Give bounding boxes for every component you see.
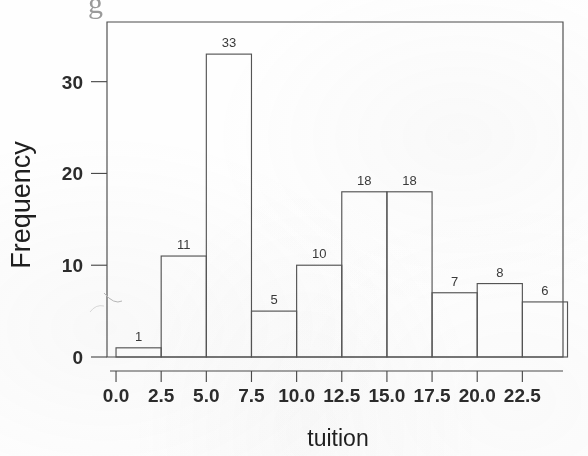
bar-value-label: 8	[496, 265, 503, 280]
y-axis-title: Frequency	[6, 141, 36, 269]
histogram-bar-hitbox[interactable]	[161, 256, 206, 357]
bar-value-label: 6	[541, 283, 548, 298]
bar-value-label: 18	[357, 173, 371, 188]
bar-value-label: 5	[270, 292, 277, 307]
histogram-bar-hitbox[interactable]	[522, 302, 567, 357]
x-tick-label-5: 12.5	[323, 385, 360, 406]
bar-value-label: 18	[402, 173, 416, 188]
x-tick-label-4: 10.0	[278, 385, 315, 406]
histogram-screenshot: g 0102030 0.02.55.07.510.012.515.017.520…	[0, 0, 588, 456]
x-tick-label-9: 22.5	[504, 385, 541, 406]
scan-scratch-mark-2	[90, 306, 104, 312]
x-axis-ticks	[116, 371, 522, 382]
histogram-bar-hitbox[interactable]	[387, 192, 432, 357]
bar-value-label: 11	[177, 237, 191, 252]
histogram-bar-hitbox[interactable]	[432, 293, 477, 357]
x-tick-label-2: 5.0	[193, 385, 219, 406]
y-tick-label-3: 30	[62, 72, 83, 93]
y-axis-ticks	[91, 82, 107, 357]
y-tick-label-0: 0	[72, 347, 83, 368]
x-axis-tick-labels: 0.02.55.07.510.012.515.017.520.022.5	[103, 385, 541, 406]
scan-artifact-glyph: g	[88, 0, 103, 20]
histogram-bar-hitbox[interactable]	[116, 348, 161, 357]
y-axis: 0102030	[62, 72, 107, 368]
y-tick-label-2: 20	[62, 163, 83, 184]
histogram-plot: 0102030 0.02.55.07.510.012.515.017.520.0…	[0, 0, 588, 456]
histogram-bar-hitbox[interactable]	[206, 54, 251, 357]
histogram-bars	[116, 54, 567, 357]
x-tick-label-0: 0.0	[103, 385, 129, 406]
histogram-bar-hitbox[interactable]	[297, 265, 342, 357]
y-tick-label-1: 10	[62, 255, 83, 276]
y-axis-tick-labels: 0102030	[62, 72, 83, 368]
histogram-bar-hitbox[interactable]	[477, 284, 522, 357]
bar-value-label: 33	[222, 35, 236, 50]
bar-value-label: 1	[135, 329, 142, 344]
x-tick-label-7: 17.5	[414, 385, 451, 406]
x-axis: 0.02.55.07.510.012.515.017.520.022.5	[103, 371, 563, 406]
x-axis-title: tuition	[307, 425, 368, 451]
x-tick-label-3: 7.5	[238, 385, 265, 406]
x-tick-label-8: 20.0	[459, 385, 496, 406]
x-tick-label-1: 2.5	[148, 385, 175, 406]
histogram-bar-hitbox[interactable]	[342, 192, 387, 357]
x-tick-label-6: 15.0	[368, 385, 405, 406]
bar-value-label: 10	[312, 246, 326, 261]
histogram-bar-hitbox[interactable]	[251, 311, 296, 357]
bar-value-label: 7	[451, 274, 458, 289]
